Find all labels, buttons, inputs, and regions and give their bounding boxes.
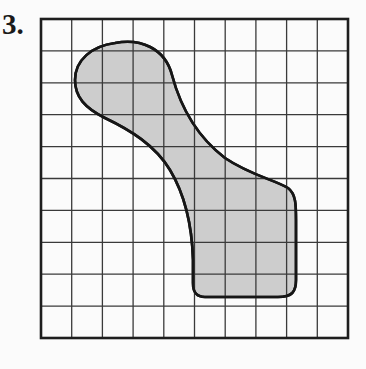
grid-figure (0, 0, 366, 369)
shaded-region (75, 42, 296, 297)
